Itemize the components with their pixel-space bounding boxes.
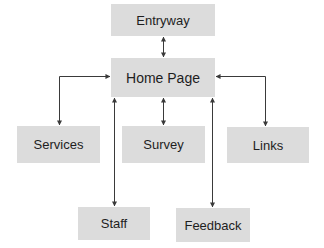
node-label: Entryway bbox=[136, 13, 189, 28]
node-feedback: Feedback bbox=[176, 208, 250, 242]
node-label: Services bbox=[34, 137, 84, 152]
node-label: Feedback bbox=[184, 218, 241, 233]
node-links: Links bbox=[227, 127, 309, 163]
node-entryway: Entryway bbox=[111, 4, 215, 36]
edge-home-services bbox=[60, 77, 111, 126]
node-survey: Survey bbox=[122, 126, 205, 163]
node-label: Links bbox=[253, 138, 283, 153]
node-services: Services bbox=[17, 126, 100, 163]
edge-home-links bbox=[216, 77, 266, 127]
node-label: Home Page bbox=[126, 70, 200, 86]
node-label: Staff bbox=[101, 216, 128, 231]
node-home-page: Home Page bbox=[111, 58, 215, 97]
node-label: Survey bbox=[143, 137, 183, 152]
node-staff: Staff bbox=[78, 207, 150, 240]
connector-layer bbox=[0, 0, 324, 248]
